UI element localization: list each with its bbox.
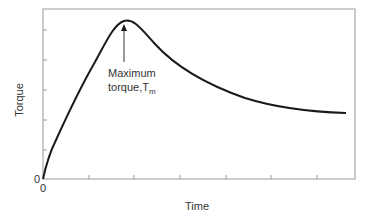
annotation-line2: torque,Tm	[108, 81, 156, 96]
plot-frame	[43, 9, 355, 179]
torque-time-chart: Maximum torque,Tm Torque Time 0 0	[0, 0, 374, 218]
y-axis-label: Torque	[13, 83, 25, 117]
arrow-head-icon	[121, 24, 127, 31]
x-axis-ticks	[89, 175, 317, 179]
torque-curve	[43, 21, 346, 179]
x-origin-label: 0	[40, 182, 46, 194]
x-axis-label: Time	[185, 200, 209, 212]
annotation-line1: Maximum	[108, 67, 156, 79]
y-axis-ticks	[43, 30, 47, 150]
